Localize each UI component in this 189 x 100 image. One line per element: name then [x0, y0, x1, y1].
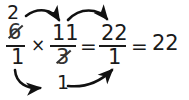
result-fraction-bar [99, 45, 126, 47]
multiplication-operator: × [31, 37, 45, 54]
second-fraction-numerator: 11 [52, 23, 79, 44]
result-fraction-denominator: 1 [108, 47, 121, 68]
math-expression-layer: 2 6 1 × 11 3 1 = 22 1 = 22 [0, 0, 189, 100]
first-fraction-denominator: 1 [11, 47, 24, 68]
final-answer: 22 [152, 33, 179, 54]
equals-operator-first: = [80, 36, 97, 56]
result-fraction-numerator: 22 [101, 23, 128, 44]
cancel-replacement-bottom: 1 [57, 73, 69, 92]
math-diagram-canvas: 2 6 1 × 11 3 1 = 22 1 = 22 [0, 0, 189, 100]
second-fraction-bar [50, 45, 76, 47]
equals-operator-second: = [131, 36, 148, 56]
first-fraction-bar [6, 45, 25, 47]
